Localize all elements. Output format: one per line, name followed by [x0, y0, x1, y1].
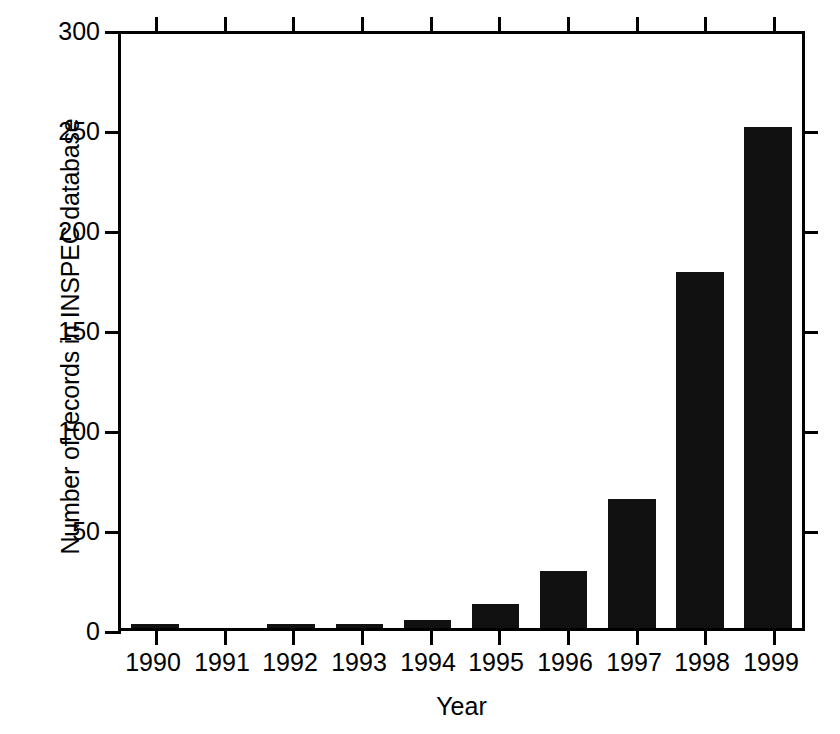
- x-tick-mark-1995: [498, 628, 501, 645]
- y-tick-mark-200: [105, 231, 121, 234]
- x-tick-mark-1991: [224, 628, 227, 645]
- bar-1998: [676, 272, 724, 628]
- plot-area: [118, 31, 805, 631]
- x-tick-mark-1997: [636, 628, 639, 645]
- y-tick-label-50: 50: [10, 519, 100, 544]
- y-tick-mark-100: [105, 431, 121, 434]
- x-tick-mark-top-1993: [361, 17, 364, 34]
- x-tick-mark-1999: [773, 628, 776, 645]
- bar-1999: [744, 127, 792, 628]
- bar-1993: [336, 624, 384, 628]
- x-tick-mark-top-1991: [224, 17, 227, 34]
- x-axis-title: Year: [118, 692, 805, 721]
- x-tick-mark-top-1992: [292, 17, 295, 34]
- bar-1990: [131, 624, 179, 628]
- y-tick-mark-300: [105, 31, 121, 34]
- x-tick-mark-top-1996: [567, 17, 570, 34]
- x-tick-mark-top-1998: [704, 17, 707, 34]
- bar-1996: [540, 571, 588, 628]
- y-tick-mark-50: [105, 531, 121, 534]
- y-tick-mark-250: [105, 131, 121, 134]
- y-tick-mark-right-50: [802, 531, 818, 534]
- y-tick-label-300: 300: [10, 19, 100, 44]
- x-tick-mark-top-1990: [155, 17, 158, 34]
- y-tick-label-0: 0: [10, 619, 100, 644]
- y-tick-label-100: 100: [10, 419, 100, 444]
- x-tick-mark-1998: [704, 628, 707, 645]
- x-tick-mark-top-1994: [430, 17, 433, 34]
- bar-1995: [472, 604, 520, 628]
- y-tick-mark-right-200: [802, 231, 818, 234]
- bar-1994: [404, 620, 452, 628]
- bar-chart-figure: Number of records in INSPEC database 0 5…: [0, 0, 840, 734]
- bar-1997: [608, 499, 656, 628]
- y-tick-mark-right-150: [802, 331, 818, 334]
- y-tick-label-250: 250: [10, 119, 100, 144]
- y-tick-mark-0: [105, 631, 121, 634]
- x-tick-mark-top-1995: [498, 17, 501, 34]
- y-tick-label-200: 200: [10, 219, 100, 244]
- x-tick-mark-1993: [361, 628, 364, 645]
- x-tick-label-1999: 1999: [726, 650, 816, 675]
- x-tick-mark-1990: [155, 628, 158, 645]
- bar-1992: [267, 624, 315, 628]
- x-tick-mark-1992: [292, 628, 295, 645]
- x-tick-mark-top-1999: [773, 17, 776, 34]
- y-tick-mark-right-250: [802, 131, 818, 134]
- x-tick-mark-1994: [430, 628, 433, 645]
- y-tick-label-150: 150: [10, 319, 100, 344]
- x-tick-mark-1996: [567, 628, 570, 645]
- y-tick-mark-150: [105, 331, 121, 334]
- y-tick-mark-right-100: [802, 431, 818, 434]
- x-tick-mark-top-1997: [636, 17, 639, 34]
